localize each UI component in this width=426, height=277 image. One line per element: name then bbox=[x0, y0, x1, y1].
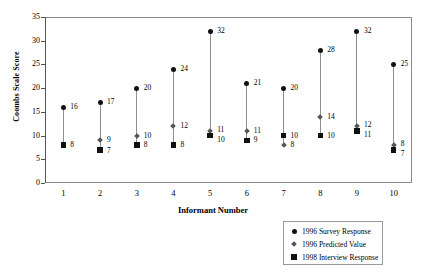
data-point-square bbox=[97, 147, 103, 153]
x-axis-tick-label: 5 bbox=[198, 189, 222, 198]
legend-item-label: 1996 Survey Response bbox=[302, 227, 371, 236]
data-point-square bbox=[244, 138, 250, 144]
data-point-label: 12 bbox=[364, 121, 372, 129]
data-point-label: 10 bbox=[327, 132, 335, 140]
data-point-label: 10 bbox=[291, 132, 299, 140]
data-point-circle bbox=[171, 67, 176, 72]
legend-item: 1998 Interview Response bbox=[289, 251, 382, 263]
data-point-label: 20 bbox=[144, 84, 152, 92]
data-point-label: 10 bbox=[217, 136, 225, 144]
data-point-label: 32 bbox=[217, 27, 225, 35]
y-axis-tick-label: 30 bbox=[18, 37, 40, 45]
data-point-square bbox=[391, 147, 397, 153]
data-point-label: 20 bbox=[291, 84, 299, 92]
range-stem bbox=[320, 50, 321, 135]
chart-root: 05101520253035 Coombs Scale Score 123456… bbox=[0, 0, 426, 277]
data-point-circle bbox=[98, 100, 103, 105]
data-point-square bbox=[318, 133, 324, 139]
y-axis-tick bbox=[41, 64, 45, 65]
legend-item-label: 1998 Interview Response bbox=[302, 253, 378, 262]
data-point-square bbox=[134, 142, 140, 148]
data-point-label: 17 bbox=[107, 98, 115, 106]
y-axis-tick bbox=[41, 41, 45, 42]
x-axis-tick-label: 1 bbox=[51, 189, 75, 198]
y-axis-title: Coombs Scale Score bbox=[12, 27, 21, 147]
legend-item: 1996 Survey Response bbox=[289, 225, 382, 237]
y-axis-tick bbox=[41, 159, 45, 160]
data-point-label: 9 bbox=[107, 136, 111, 144]
data-point-square bbox=[281, 133, 287, 139]
range-stem bbox=[356, 31, 357, 131]
y-axis-tick-label: 10 bbox=[18, 132, 40, 140]
x-axis-tick-label: 4 bbox=[161, 189, 185, 198]
legend-diamond-icon bbox=[289, 242, 299, 246]
data-point-label: 14 bbox=[327, 113, 335, 121]
data-point-label: 32 bbox=[364, 27, 372, 35]
x-axis-tick-label: 3 bbox=[125, 189, 149, 198]
range-stem bbox=[173, 69, 174, 145]
x-axis-tick-label: 8 bbox=[308, 189, 332, 198]
data-point-square bbox=[61, 142, 67, 148]
data-point-square bbox=[354, 128, 360, 134]
data-point-label: 16 bbox=[70, 103, 78, 111]
range-stem bbox=[210, 31, 211, 135]
data-point-label: 8 bbox=[70, 141, 74, 149]
y-axis-tick-label: 25 bbox=[18, 60, 40, 68]
data-point-label: 10 bbox=[144, 132, 152, 140]
y-axis-tick bbox=[41, 183, 45, 184]
y-axis-tick-label: 15 bbox=[18, 108, 40, 116]
x-axis-title: Informant Number bbox=[0, 205, 426, 215]
y-axis-tick-label: 0 bbox=[18, 179, 40, 187]
data-point-label: 7 bbox=[107, 147, 111, 155]
y-axis-tick-label: 35 bbox=[18, 13, 40, 21]
y-axis-tick bbox=[41, 88, 45, 89]
data-point-label: 12 bbox=[180, 122, 188, 130]
data-point-circle bbox=[61, 105, 66, 110]
x-axis-tick-label: 10 bbox=[382, 189, 406, 198]
data-point-circle bbox=[134, 86, 139, 91]
data-point-label: 8 bbox=[291, 141, 295, 149]
y-axis-tick bbox=[41, 112, 45, 113]
chart-legend: 1996 Survey Response1996 Predicted Value… bbox=[283, 221, 383, 265]
data-point-label: 11 bbox=[364, 131, 371, 139]
legend-item: 1996 Predicted Value bbox=[289, 238, 382, 250]
legend-item-label: 1996 Predicted Value bbox=[302, 240, 366, 249]
legend-circle-icon bbox=[289, 229, 299, 234]
data-point-label: 8 bbox=[180, 141, 184, 149]
data-point-label: 11 bbox=[217, 126, 224, 134]
y-axis-line bbox=[45, 17, 46, 183]
data-point-label: 25 bbox=[401, 60, 409, 68]
data-point-label: 9 bbox=[254, 136, 258, 144]
legend-square-icon bbox=[289, 254, 299, 260]
y-axis-tick-label: 20 bbox=[18, 84, 40, 92]
x-axis-tick-label: 2 bbox=[88, 189, 112, 198]
data-point-square bbox=[207, 133, 213, 139]
range-stem bbox=[63, 107, 64, 145]
x-axis-tick-label: 9 bbox=[345, 189, 369, 198]
data-point-label: 21 bbox=[254, 79, 262, 87]
data-point-label: 28 bbox=[327, 46, 335, 54]
data-point-label: 11 bbox=[254, 127, 261, 135]
x-axis-tick-label: 6 bbox=[235, 189, 259, 198]
y-axis-tick-label: 5 bbox=[18, 155, 40, 163]
data-point-label: 7 bbox=[401, 150, 405, 158]
y-axis-tick bbox=[41, 136, 45, 137]
range-stem bbox=[393, 64, 394, 149]
data-point-square bbox=[171, 142, 177, 148]
data-point-label: 8 bbox=[144, 141, 148, 149]
data-point-circle bbox=[281, 86, 286, 91]
data-point-circle bbox=[318, 48, 323, 53]
data-point-label: 24 bbox=[180, 65, 188, 73]
x-axis-tick-label: 7 bbox=[272, 189, 296, 198]
y-axis-tick bbox=[41, 17, 45, 18]
data-point-circle bbox=[208, 29, 213, 34]
data-point-label: 8 bbox=[401, 140, 405, 148]
